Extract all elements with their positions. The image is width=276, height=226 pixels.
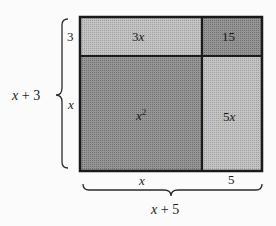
vertical-total-label: x + 3 [12, 89, 40, 103]
side-label-top-row: 3 [67, 30, 74, 43]
side-label-bottom-row: x [68, 98, 74, 111]
area-model-diagram: 3x 15 x2 5x 3 x x 5 x + 3 x + 5 [0, 0, 276, 226]
bottom-brace-icon [83, 184, 262, 196]
region-label-15: 15 [222, 30, 235, 43]
region-label-x-squared: x2 [136, 108, 146, 122]
region-label-3x: 3x [132, 30, 144, 43]
region-label-5x: 5x [223, 110, 235, 123]
horizontal-total-label: x + 5 [151, 203, 179, 217]
side-label-left-col: x [139, 174, 145, 187]
side-label-right-col: 5 [228, 173, 235, 186]
